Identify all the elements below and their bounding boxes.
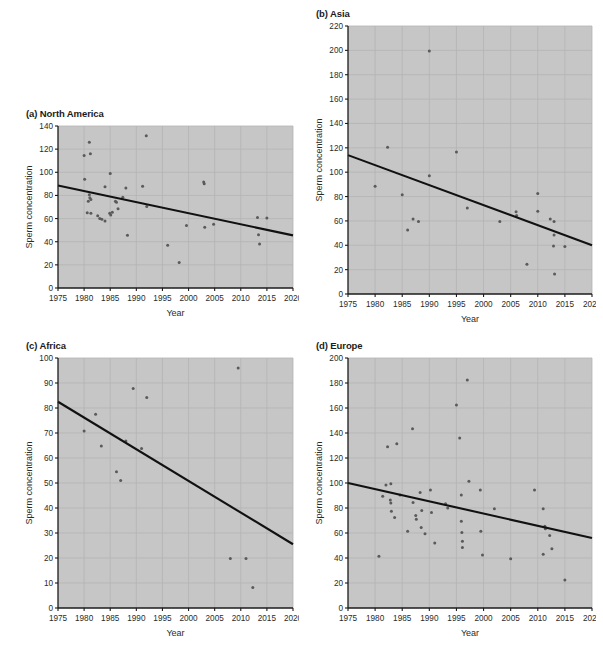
data-point: [467, 480, 470, 483]
plot-area-asia: 0204060801001201401601802002201975198019…: [300, 8, 596, 338]
y-tick-label: 60: [44, 215, 54, 224]
data-point: [525, 263, 528, 266]
data-point: [109, 172, 112, 175]
data-point: [111, 211, 114, 214]
data-point: [126, 234, 129, 237]
x-tick-label: 2020: [583, 300, 596, 309]
data-point: [411, 427, 414, 430]
data-point: [479, 530, 482, 533]
y-tick-label: 0: [48, 604, 53, 613]
data-point: [245, 557, 248, 560]
data-point: [185, 224, 188, 227]
x-axis-title: Year: [461, 628, 479, 638]
x-tick-label: 2020: [284, 294, 299, 303]
data-point: [446, 507, 449, 510]
data-point: [88, 141, 91, 144]
data-point: [203, 226, 206, 229]
data-point: [393, 516, 396, 519]
data-point: [251, 586, 254, 589]
data-point: [88, 193, 91, 196]
panel-title-asia: (b) Asia: [316, 8, 350, 19]
y-tick-label: 200: [329, 46, 343, 55]
x-axis-title: Year: [461, 314, 479, 324]
data-point: [515, 210, 518, 213]
x-tick-label: 1975: [49, 614, 68, 623]
y-tick-label: 80: [44, 404, 54, 413]
data-point: [389, 482, 392, 485]
data-point: [89, 152, 92, 155]
data-point: [460, 493, 463, 496]
x-tick-label: 2000: [474, 614, 493, 623]
data-point: [89, 212, 92, 215]
data-point: [542, 507, 545, 510]
data-point: [94, 413, 97, 416]
data-point: [386, 146, 389, 149]
x-tick-label: 2015: [258, 614, 277, 623]
plot-area-north_america: 0204060801001201401975198019851990199520…: [14, 108, 299, 330]
panel-north-america: 0204060801001201401975198019851990199520…: [14, 108, 299, 330]
x-tick-label: 1985: [101, 614, 120, 623]
data-point: [563, 578, 566, 581]
y-tick-label: 0: [338, 290, 343, 299]
x-tick-label: 1980: [75, 294, 94, 303]
data-point: [212, 223, 215, 226]
y-tick-label: 140: [329, 119, 343, 128]
panel-title-europe: (d) Europe: [316, 340, 363, 351]
y-tick-label: 80: [334, 193, 344, 202]
panel-title-north-america: (a) North America: [26, 108, 104, 119]
x-tick-label: 1985: [393, 614, 412, 623]
data-point: [83, 154, 86, 157]
data-point: [466, 378, 469, 381]
data-point: [419, 491, 422, 494]
y-tick-label: 50: [44, 479, 54, 488]
x-tick-label: 2010: [529, 300, 548, 309]
data-point: [466, 207, 469, 210]
data-point: [257, 233, 260, 236]
x-axis-title: Year: [166, 308, 184, 318]
x-tick-label: 2005: [502, 300, 521, 309]
y-tick-label: 220: [329, 22, 343, 31]
x-tick-label: 1980: [75, 614, 94, 623]
data-point: [406, 229, 409, 232]
x-tick-label: 1990: [420, 614, 439, 623]
data-point: [401, 193, 404, 196]
panel-africa: 0102030405060708090100197519801985199019…: [14, 340, 299, 652]
data-point: [115, 201, 118, 204]
y-tick-label: 0: [48, 284, 53, 293]
y-tick-label: 140: [39, 122, 53, 131]
y-tick-label: 100: [39, 354, 53, 363]
data-point: [415, 518, 418, 521]
y-tick-label: 60: [44, 454, 54, 463]
data-point: [119, 479, 122, 482]
x-tick-label: 1990: [420, 300, 439, 309]
data-point: [460, 520, 463, 523]
x-tick-label: 2000: [179, 294, 198, 303]
data-point: [178, 261, 181, 264]
data-point: [258, 243, 261, 246]
data-point: [395, 442, 398, 445]
data-point: [377, 555, 380, 558]
data-point: [237, 367, 240, 370]
data-point: [124, 186, 127, 189]
y-tick-label: 20: [334, 579, 344, 588]
data-point: [542, 553, 545, 556]
data-point: [509, 557, 512, 560]
data-point: [145, 134, 148, 137]
data-point: [104, 219, 107, 222]
y-tick-label: 0: [338, 604, 343, 613]
data-point: [549, 218, 552, 221]
y-tick-label: 180: [329, 71, 343, 80]
y-axis-title: Sperm concentration: [24, 441, 34, 524]
data-point: [536, 192, 539, 195]
figure-sperm-concentration-by-region: 0204060801001201401975198019851990199520…: [0, 0, 603, 655]
data-point: [479, 488, 482, 491]
y-axis-title: Sperm concentration: [24, 165, 34, 248]
x-tick-label: 1975: [49, 294, 68, 303]
data-point: [429, 488, 432, 491]
x-tick-label: 2015: [556, 300, 575, 309]
data-point: [414, 514, 417, 517]
data-point: [389, 502, 392, 505]
y-tick-label: 20: [334, 266, 344, 275]
x-tick-label: 1975: [339, 614, 358, 623]
data-point: [433, 542, 436, 545]
